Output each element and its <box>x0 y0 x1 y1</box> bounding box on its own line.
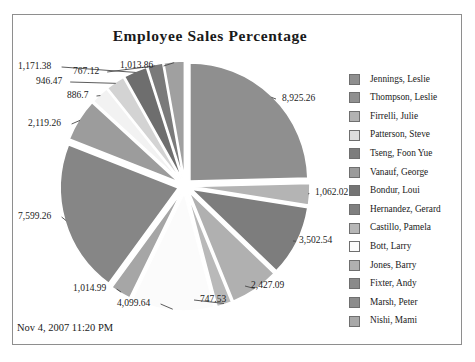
legend-color-swatch <box>349 204 360 215</box>
slice-value-label: 747.53 <box>200 295 226 305</box>
legend-item[interactable]: Vanauf, George <box>349 163 461 182</box>
slice-value-label: 1,013.86 <box>120 61 153 71</box>
slice-value-label: 946.47 <box>36 77 62 87</box>
legend-item-label: Bondur, Loui <box>370 186 420 195</box>
legend-item-label: Firrelli, Julie <box>370 112 418 121</box>
legend-item-label: Jones, Barry <box>370 261 416 270</box>
slice-value-label: 8,925.26 <box>282 94 315 104</box>
pie-chart-area: 8,925.261,062.023,502.542,427.09747.534,… <box>0 0 345 362</box>
chart-legend: Jennings, LeslieThompson, LeslieFirrelli… <box>349 70 461 330</box>
legend-color-swatch <box>349 223 360 234</box>
legend-item-label: Nishi, Mami <box>370 316 417 325</box>
pie-slices-group <box>60 61 310 311</box>
legend-item[interactable]: Tseng, Foon Yue <box>349 144 461 163</box>
legend-color-swatch <box>349 260 360 271</box>
slice-value-label: 2,427.09 <box>251 281 284 291</box>
slice-value-label: 1,171.38 <box>18 62 51 72</box>
legend-item-label: Jennings, Leslie <box>370 75 430 84</box>
legend-color-swatch <box>349 74 360 85</box>
legend-item[interactable]: Bott, Larry <box>349 237 461 256</box>
legend-item-label: Tseng, Foon Yue <box>370 149 432 158</box>
legend-item-label: Hernandez, Gerard <box>370 205 441 214</box>
legend-item[interactable]: Hernandez, Gerard <box>349 200 461 219</box>
report-canvas: Employee Sales Percentage 8,925.261,062.… <box>0 0 475 362</box>
legend-item[interactable]: Firrelli, Julie <box>349 107 461 126</box>
legend-color-swatch <box>349 185 360 196</box>
slice-value-label: 1,062.02 <box>315 188 348 198</box>
report-timestamp: Nov 4, 2007 11:20 PM <box>17 322 113 333</box>
legend-color-swatch <box>349 111 360 122</box>
legend-color-swatch <box>349 316 360 327</box>
legend-color-swatch <box>349 130 360 141</box>
legend-color-swatch <box>349 278 360 289</box>
legend-item[interactable]: Marsh, Peter <box>349 293 461 312</box>
pie-slice[interactable] <box>190 63 308 181</box>
legend-item[interactable]: Jennings, Leslie <box>349 70 461 89</box>
pie-chart-svg <box>0 0 345 362</box>
legend-item[interactable]: Patterson, Steve <box>349 126 461 145</box>
legend-item-label: Vanauf, George <box>370 168 428 177</box>
legend-item-label: Thompson, Leslie <box>370 93 437 102</box>
legend-item-label: Fixter, Andy <box>370 279 417 288</box>
legend-item[interactable]: Fixter, Andy <box>349 275 461 294</box>
slice-value-label: 886.7 <box>67 91 88 101</box>
slice-value-label: 1,014.99 <box>73 284 106 294</box>
legend-item[interactable]: Thompson, Leslie <box>349 89 461 108</box>
slice-value-label: 3,502.54 <box>299 236 332 246</box>
legend-item[interactable]: Castillo, Pamela <box>349 219 461 238</box>
legend-color-swatch <box>349 148 360 159</box>
legend-item-label: Patterson, Steve <box>370 130 430 139</box>
legend-item[interactable]: Nishi, Mami <box>349 312 461 331</box>
legend-item-label: Bott, Larry <box>370 242 411 251</box>
slice-value-label: 767.12 <box>73 67 99 77</box>
legend-item[interactable]: Bondur, Loui <box>349 182 461 201</box>
legend-color-swatch <box>349 167 360 178</box>
slice-value-label: 2,119.26 <box>28 119 61 129</box>
legend-item[interactable]: Jones, Barry <box>349 256 461 275</box>
legend-item-label: Castillo, Pamela <box>370 223 431 232</box>
slice-value-label: 4,099.64 <box>117 299 150 309</box>
slice-value-label: 7,599.26 <box>18 212 51 222</box>
legend-color-swatch <box>349 241 360 252</box>
legend-item-label: Marsh, Peter <box>370 298 418 307</box>
callout-leader-line <box>70 82 116 83</box>
legend-color-swatch <box>349 92 360 103</box>
legend-color-swatch <box>349 297 360 308</box>
